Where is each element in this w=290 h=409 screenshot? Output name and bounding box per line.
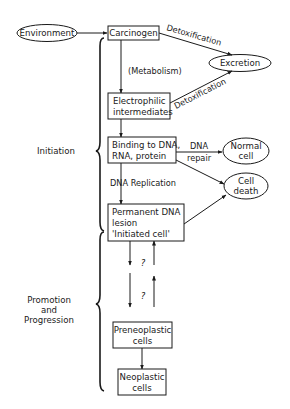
unknown-step-2: ? (141, 291, 146, 301)
initiation-brace (96, 38, 104, 231)
dna-repair-label-line2: repair (187, 153, 212, 163)
node-binding: Binding to DNA, RNA, protein (108, 137, 180, 163)
node-excretion: Excretion (209, 55, 271, 72)
node-environment: Environment (17, 25, 77, 42)
carcinogenesis-diagram: Environment Carcinogen Excretion Detoxif… (0, 0, 290, 409)
lesion-label-line1: Permanent DNA (112, 207, 181, 217)
neoplastic-label-line2: cells (132, 383, 152, 393)
detoxification-label-2: Detoxification (172, 76, 227, 111)
stage-promotion-label-line1: Promotion (27, 295, 71, 305)
carcinogen-label: Carcinogen (109, 28, 158, 38)
stage-promotion-label-line2: and (41, 305, 57, 315)
dna-repair-label-line1: DNA (190, 141, 208, 151)
cell-death-label-line2: death (234, 186, 259, 196)
binding-label-line2: RNA, protein (112, 151, 166, 161)
arrow-lesion-to-cell-death (184, 195, 226, 224)
binding-label-line1: Binding to DNA, (112, 140, 180, 150)
normal-cell-label-line2: cell (239, 151, 254, 161)
metabolism-label: (Metabolism) (128, 66, 182, 76)
node-carcinogen: Carcinogen (108, 26, 159, 40)
node-electrophilic-intermediates: Electrophilic intermediates (108, 93, 173, 119)
stage-initiation-label: Initiation (37, 146, 75, 156)
stage-promotion-label-line3: Progression (24, 315, 74, 325)
arrow-binding-to-cell-death (176, 160, 224, 184)
lesion-label-line2: lesion (112, 218, 137, 228)
normal-cell-label-line1: Normal (230, 141, 261, 151)
node-cell-death: Cell death (224, 173, 268, 199)
unknown-step-1: ? (141, 258, 146, 268)
dna-replication-label: DNA Replication (110, 178, 176, 188)
node-preneoplastic: Preneoplastic cells (113, 322, 172, 348)
node-permanent-lesion: Permanent DNA lesion 'Initiated cell' (108, 204, 184, 241)
promotion-brace (96, 232, 104, 391)
neoplastic-label-line1: Neoplastic (119, 372, 164, 382)
excretion-label: Excretion (220, 58, 260, 68)
electrophilic-label-line1: Electrophilic (113, 96, 166, 106)
preneoplastic-label-line2: cells (133, 336, 153, 346)
preneoplastic-label-line1: Preneoplastic (114, 325, 172, 335)
electrophilic-label-line2: intermediates (113, 107, 173, 117)
environment-label: Environment (20, 28, 76, 38)
lesion-label-line3: 'Initiated cell' (112, 229, 170, 239)
node-normal-cell: Normal cell (223, 138, 269, 164)
node-neoplastic: Neoplastic cells (118, 369, 166, 395)
cell-death-label-line1: Cell (238, 176, 254, 186)
